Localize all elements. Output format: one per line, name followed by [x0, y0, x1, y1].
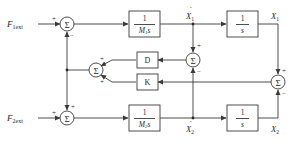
g1-numerator: 1	[143, 14, 147, 23]
wire-x2-to-right-sum	[258, 90, 278, 118]
sign-left-d: +	[100, 55, 104, 63]
sign-mid-top: +	[197, 42, 201, 50]
signal-x1dot: X1	[185, 11, 194, 22]
node-x1dot	[192, 23, 195, 26]
i1-denominator: s	[241, 26, 244, 35]
signal-x2dot: X2	[185, 124, 194, 135]
i2-denominator: s	[241, 120, 244, 129]
signal-x1: X1	[270, 11, 279, 22]
g1-denominator: M1s	[138, 26, 151, 35]
g2-denominator: M2s	[138, 120, 151, 129]
sigma-mid-left: Σ	[93, 66, 98, 76]
input-f2ext: F2ext	[6, 113, 23, 124]
sigma-top: Σ	[64, 20, 69, 30]
input-f1ext: F1ext	[6, 19, 23, 30]
g2-numerator: 1	[143, 108, 147, 117]
signal-x2: X2	[270, 124, 279, 135]
i1-numerator: 1	[241, 14, 245, 23]
k-label: K	[145, 78, 151, 87]
sign-right-bottom: −	[282, 90, 286, 98]
d-label: D	[145, 56, 151, 65]
block-diagram: Σ Σ Σ Σ Σ + − + + + + + − + − F1ext F2ex…	[0, 0, 297, 142]
node-feedback-split	[66, 69, 69, 72]
sigma-mid-center: Σ	[190, 56, 195, 66]
sign-bottom-in: +	[52, 109, 56, 117]
sign-mid-bottom: −	[197, 68, 201, 76]
wire-d-to-leftsum	[101, 60, 136, 66]
sigma-bottom: Σ	[64, 114, 69, 124]
sigma-right: Σ	[275, 78, 280, 88]
sign-right-top: +	[282, 67, 286, 75]
sign-top-fb: −	[70, 32, 74, 40]
sign-top-in: +	[52, 15, 56, 23]
wire-k-to-leftsum	[101, 75, 136, 82]
sign-left-k: +	[100, 78, 104, 86]
sign-bottom-fb: +	[71, 103, 75, 111]
i2-numerator: 1	[241, 108, 245, 117]
wire-x1-to-right-sum	[258, 24, 278, 74]
